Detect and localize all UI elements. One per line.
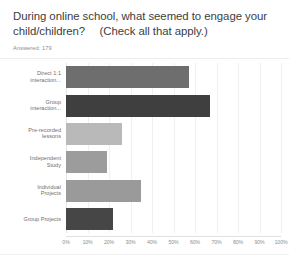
bar-row: Group Projects (66, 208, 281, 230)
footer-divider (0, 254, 289, 255)
category-label: Direct 1:1 interaction... (3, 71, 61, 84)
bar-row: Direct 1:1 interaction... (66, 66, 281, 88)
x-axis-tick-labels: 0%10%20%30%40%50%60%70%80%90%100% (66, 238, 281, 250)
x-tick-label: 10% (82, 238, 92, 246)
bar (66, 66, 189, 88)
x-tick-label: 80% (233, 238, 243, 246)
page-title: During online school, what seemed to eng… (13, 9, 277, 38)
survey-chart-page: During online school, what seemed to eng… (0, 0, 289, 261)
x-tick-label: 70% (211, 238, 221, 246)
category-label: Individual Projects (3, 184, 61, 197)
bar-row: Pre-recorded lessons (66, 123, 281, 145)
plot-area: Direct 1:1 interaction...Group interacti… (66, 63, 281, 233)
bar-row: Individual Projects (66, 180, 281, 202)
bar (66, 151, 107, 173)
bar (66, 123, 122, 145)
x-axis-line (66, 236, 281, 237)
answered-count: Answered: 179 (13, 44, 277, 52)
category-label: Independent Study (3, 156, 61, 169)
category-label: Group interaction... (3, 99, 61, 112)
x-tick-label: 50% (168, 238, 178, 246)
bar (66, 180, 141, 202)
bar-row: Group interaction... (66, 95, 281, 117)
x-tick-label: 20% (104, 238, 114, 246)
x-tick-label: 100% (274, 238, 287, 246)
x-tick-label: 90% (254, 238, 264, 246)
bar (66, 208, 113, 230)
category-label: Group Projects (3, 216, 61, 223)
bar-series: Direct 1:1 interaction...Group interacti… (66, 63, 281, 233)
x-tick-label: 60% (190, 238, 200, 246)
chart-header: During online school, what seemed to eng… (0, 0, 289, 52)
x-tick-label: 40% (147, 238, 157, 246)
x-tick-label: 0% (62, 238, 69, 246)
bar-row: Independent Study (66, 151, 281, 173)
x-tick-label: 30% (125, 238, 135, 246)
bar (66, 95, 210, 117)
bar-chart: Direct 1:1 interaction...Group interacti… (0, 58, 289, 261)
category-label: Pre-recorded lessons (3, 127, 61, 140)
gridline (281, 63, 282, 233)
